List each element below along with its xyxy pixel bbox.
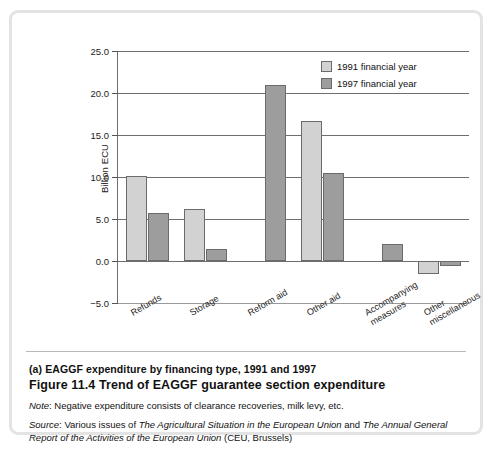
- y-tick-mark: [112, 93, 118, 94]
- y-tick-mark: [112, 303, 118, 304]
- bar: [126, 176, 147, 261]
- bar: [418, 261, 439, 274]
- bar: [301, 121, 322, 261]
- y-tick-mark: [112, 135, 118, 136]
- panel-label: (a) EAGGF expenditure by financing type,…: [29, 363, 463, 375]
- source-italic-1: The Agricultural Situation in the Europe…: [139, 419, 342, 430]
- y-tick-label: 20.0: [91, 88, 110, 99]
- legend-item: 1991 financial year: [321, 59, 417, 74]
- legend-swatch-1997: [321, 78, 332, 89]
- source-part-3: (CEU, Brussels): [221, 432, 292, 443]
- source-prefix: Source: [29, 419, 59, 430]
- bar: [265, 85, 286, 261]
- y-tick-label: 10.0: [91, 172, 110, 183]
- y-tick-label: 0.0: [96, 256, 109, 267]
- y-tick-label: 5.0: [96, 214, 109, 225]
- y-tick-label: 15.0: [91, 130, 110, 141]
- y-tick-label: −5.0: [90, 298, 109, 309]
- bar: [206, 249, 227, 261]
- note-prefix: Note: [29, 400, 49, 411]
- bar: [148, 213, 169, 261]
- bar: [382, 244, 403, 261]
- legend-item: 1997 financial year: [321, 76, 417, 91]
- y-tick-mark: [112, 261, 118, 262]
- bar: [323, 173, 344, 261]
- gridline: 15.0: [118, 135, 469, 136]
- figure-frame: Billion ECU −5.00.05.010.015.020.025.0 R…: [9, 10, 483, 435]
- chart: Billion ECU −5.00.05.010.015.020.025.0 R…: [12, 13, 480, 353]
- legend: 1991 financial year 1997 financial year: [315, 55, 425, 97]
- note-text: : Negative expenditure consists of clear…: [49, 400, 343, 411]
- gridline: 10.0: [118, 177, 469, 178]
- source-line: Source: Various issues of The Agricultur…: [29, 419, 463, 444]
- source-part-2: and: [342, 419, 363, 430]
- note-line: Note: Negative expenditure consists of c…: [29, 400, 463, 412]
- y-tick-mark: [112, 51, 118, 52]
- caption-block: (a) EAGGF expenditure by financing type,…: [12, 351, 480, 444]
- y-tick-label: 25.0: [91, 46, 110, 57]
- y-tick-mark: [112, 177, 118, 178]
- bar: [440, 261, 461, 266]
- source-part-1: : Various issues of: [59, 419, 139, 430]
- gridline: 0.0: [118, 261, 469, 262]
- legend-label-1997: 1997 financial year: [337, 78, 417, 89]
- legend-swatch-1991: [321, 61, 332, 72]
- y-tick-mark: [112, 219, 118, 220]
- bar: [184, 209, 205, 261]
- gridline: 5.0: [118, 219, 469, 220]
- legend-label-1991: 1991 financial year: [337, 61, 417, 72]
- figure-title: Figure 11.4 Trend of EAGGF guarantee sec…: [29, 378, 463, 392]
- gridline: 25.0: [118, 51, 469, 52]
- caption-divider: [26, 351, 466, 352]
